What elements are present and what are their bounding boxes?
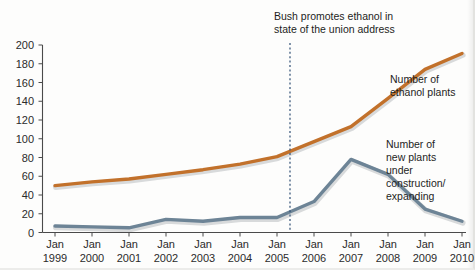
x-axis: Jan 1999 Jan 2000 Jan 2001 Jan 2002 Jan … (43, 233, 475, 265)
x-tick-label-year: 2010 (450, 252, 474, 264)
x-tick-label-month: Jan (342, 238, 360, 250)
y-tick-label: 40 (22, 189, 34, 201)
x-tick-label-month: Jan (157, 238, 175, 250)
y-tick-label: 180 (16, 58, 34, 70)
y-tick-marks (39, 45, 43, 233)
x-tick-labels: Jan 1999 Jan 2000 Jan 2001 Jan 2002 Jan … (43, 238, 474, 264)
series-label-line: ethanol plants (390, 86, 455, 98)
y-tick-label: 80 (22, 152, 34, 164)
x-tick-label-month: Jan (46, 238, 64, 250)
y-tick-label: 120 (16, 114, 34, 126)
y-tick-label: 100 (16, 133, 34, 145)
x-tick-label-year: 2002 (154, 252, 178, 264)
x-tick-label-month: Jan (194, 238, 212, 250)
x-tick-label-month: Jan (416, 238, 434, 250)
x-tick-marks (55, 233, 462, 237)
series-label-line: Number of (390, 73, 439, 85)
y-tick-label: 0 (28, 227, 34, 239)
x-tick-label-month: Jan (379, 238, 397, 250)
y-tick-labels: 0 20 40 60 80 100 120 140 160 180 200 (16, 39, 34, 239)
x-tick-label-year: 2008 (376, 252, 400, 264)
x-tick-label-month: Jan (83, 238, 101, 250)
annotation-line-2: state of the union address (274, 23, 395, 35)
y-tick-label: 200 (16, 39, 34, 51)
series-label-line: construction/ (386, 177, 446, 189)
x-tick-label-year: 2001 (117, 252, 141, 264)
x-tick-label-year: 2000 (80, 252, 104, 264)
series-label-line: expanding (386, 190, 435, 202)
y-axis: 0 20 40 60 80 100 120 140 160 180 200 (16, 39, 43, 239)
x-tick-label-month: Jan (268, 238, 286, 250)
bush-ethanol-event-annotation: Bush promotes ethanol in state of the un… (274, 10, 395, 232)
x-tick-label-year: 2005 (265, 252, 289, 264)
ethanol-plants-label: Number of ethanol plants (390, 73, 455, 98)
y-tick-label: 20 (22, 208, 34, 220)
ethanol-plants-line-chart: 0 20 40 60 80 100 120 140 160 180 200 (0, 0, 475, 270)
series-label-line: Number of (386, 138, 435, 150)
new-plants-label: Number of new plants under construction/… (386, 138, 446, 202)
x-tick-label-month: Jan (231, 238, 249, 250)
x-tick-label-year: 2003 (191, 252, 215, 264)
series-label-line: new plants (386, 151, 436, 163)
series-label-line: under (386, 164, 413, 176)
x-tick-label-year: 1999 (43, 252, 67, 264)
annotation-line-1: Bush promotes ethanol in (274, 10, 393, 22)
y-tick-label: 160 (16, 77, 34, 89)
x-tick-label-month: Jan (453, 238, 471, 250)
x-tick-label-year: 2009 (413, 252, 437, 264)
x-tick-label-year: 2007 (339, 252, 363, 264)
x-tick-label-month: Jan (120, 238, 138, 250)
chart-container: 0 20 40 60 80 100 120 140 160 180 200 (0, 0, 475, 270)
y-tick-label: 60 (22, 170, 34, 182)
y-tick-label: 140 (16, 95, 34, 107)
x-tick-label-year: 2004 (228, 252, 252, 264)
x-tick-label-year: 2006 (302, 252, 326, 264)
x-tick-label-month: Jan (305, 238, 323, 250)
